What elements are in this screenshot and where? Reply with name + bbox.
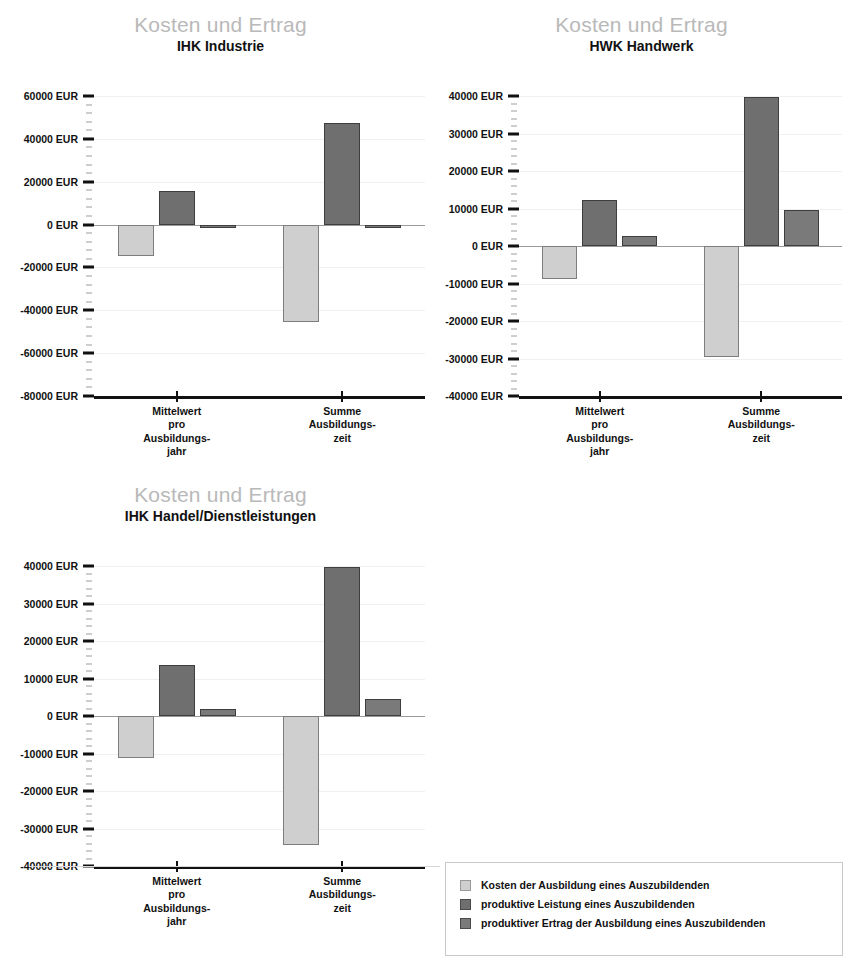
chart-0-bar: [324, 123, 360, 225]
legend-item-label: produktiver Ertrag der Ausbildung eines …: [481, 917, 766, 929]
chart-1-ytick-minor: [511, 223, 517, 224]
chart-0-ytick-label: 20000 EUR: [24, 176, 78, 188]
chart-0-ytick-minor: [86, 147, 92, 148]
chart-1-bar: [542, 246, 577, 279]
chart-0-ytick-minor: [86, 370, 92, 371]
chart-1-gridline: [519, 359, 842, 360]
chart-2-gridline: [94, 641, 425, 642]
chart-2-ytick-major: [83, 752, 94, 755]
chart-0-ytick-major: [83, 95, 94, 98]
chart-0-ytick-minor: [86, 207, 92, 208]
chart-0-subtitle: IHK Industrie: [8, 39, 433, 54]
chart-2-ytick-minor: [86, 626, 92, 627]
chart-1-ytick-minor: [511, 178, 517, 179]
chart-2-y-axis: 40000 EUR30000 EUR20000 EUR10000 EUR0 EU…: [8, 560, 94, 880]
chart-1-ytick-major: [508, 320, 519, 323]
chart-2-bar: [118, 716, 154, 758]
chart-0-xcat-label: Summe Ausbildungs- zeit: [277, 405, 407, 445]
chart-1-title: Kosten und Ertrag: [433, 14, 850, 36]
legend-swatch-icon: [460, 918, 471, 929]
chart-1-bars-panel: Mittelwert pro Ausbildungs- jahrSumme Au…: [519, 90, 842, 410]
chart-2-bar: [159, 665, 195, 716]
chart-1-ytick-minor: [511, 388, 517, 389]
chart-1-ytick-minor: [511, 298, 517, 299]
chart-2-ytick-minor: [86, 596, 92, 597]
chart-2-bar: [324, 567, 360, 716]
chart-0-ytick-label: 0 EUR: [47, 219, 78, 231]
chart-1-ytick-major: [508, 357, 519, 360]
chart-1-x-axis: [519, 396, 842, 399]
chart-0-ytick-major: [83, 266, 94, 269]
chart-0-gridline: [94, 182, 425, 183]
chart-0-bar: [159, 191, 195, 224]
chart-0-ytick-minor: [86, 113, 92, 114]
chart-1-ytick-minor: [511, 373, 517, 374]
chart-1-subtitle: HWK Handwerk: [433, 39, 850, 54]
chart-2-plot-area: 40000 EUR30000 EUR20000 EUR10000 EUR0 EU…: [8, 560, 433, 880]
chart-0-ytick-label: -40000 EUR: [20, 304, 78, 316]
chart-0-gridline: [94, 310, 425, 311]
chart-1-ytick-label: 20000 EUR: [449, 165, 503, 177]
chart-1-ytick-minor: [511, 156, 517, 157]
chart-ihk-industrie: Kosten und Ertrag IHK Industrie 60000 EU…: [8, 14, 433, 474]
chart-1-ytick-major: [508, 95, 519, 98]
chart-0-titles: Kosten und Ertrag IHK Industrie: [8, 14, 433, 54]
chart-0-gridline: [94, 353, 425, 354]
chart-0-ytick-minor: [86, 336, 92, 337]
chart-1-ytick-minor: [511, 253, 517, 254]
chart-0-gridline: [94, 96, 425, 97]
chart-0-ytick-minor: [86, 241, 92, 242]
chart-1-ytick-minor: [511, 366, 517, 367]
chart-1-gridline: [519, 284, 842, 285]
chart-0-title: Kosten und Ertrag: [8, 14, 433, 36]
chart-2-ytick-minor: [86, 723, 92, 724]
chart-0-bars-panel: Mittelwert pro Ausbildungs- jahrSumme Au…: [94, 90, 425, 410]
chart-1-gridline: [519, 171, 842, 172]
chart-2-ytick-major: [83, 640, 94, 643]
chart-0-ytick-label: 60000 EUR: [24, 90, 78, 102]
chart-0-ytick-minor: [86, 156, 92, 157]
chart-2-ytick-minor: [86, 686, 92, 687]
chart-2-ytick-minor: [86, 671, 92, 672]
chart-0-ytick-minor: [86, 190, 92, 191]
chart-1-ytick-minor: [511, 313, 517, 314]
chart-1-ytick-minor: [511, 111, 517, 112]
chart-1-bar: [622, 236, 657, 247]
chart-2-bar: [200, 709, 236, 716]
chart-1-xcat-label: Summe Ausbildungs- zeit: [696, 405, 826, 445]
chart-1-ytick-minor: [511, 238, 517, 239]
chart-1-ytick-minor: [511, 201, 517, 202]
chart-1-ytick-minor: [511, 126, 517, 127]
chart-2-ytick-label: -10000 EUR: [20, 748, 78, 760]
chart-2-ytick-minor: [86, 776, 92, 777]
chart-2-ytick-major: [83, 565, 94, 568]
chart-1-ytick-minor: [511, 163, 517, 164]
chart-0-ytick-minor: [86, 387, 92, 388]
chart-1-ytick-minor: [511, 148, 517, 149]
chart-0-ytick-minor: [86, 250, 92, 251]
chart-2-ytick-minor: [86, 648, 92, 649]
chart-2-ytick-minor: [86, 701, 92, 702]
chart-1-ytick-minor: [511, 268, 517, 269]
chart-0-ytick-minor: [86, 361, 92, 362]
chart-0-y-axis: 60000 EUR40000 EUR20000 EUR0 EUR-20000 E…: [8, 90, 94, 410]
chart-1-ytick-major: [508, 245, 519, 248]
chart-0-bar: [365, 225, 401, 228]
chart-1-ytick-major: [508, 282, 519, 285]
chart-0-ytick-label: 40000 EUR: [24, 133, 78, 145]
legend-item-label: Kosten der Ausbildung eines Auszubildend…: [481, 879, 710, 891]
chart-2-ytick-label: 30000 EUR: [24, 598, 78, 610]
chart-0-ytick-minor: [86, 378, 92, 379]
chart-0-ytick-minor: [86, 284, 92, 285]
chart-2-ytick-label: -30000 EUR: [20, 823, 78, 835]
chart-2-ytick-minor: [86, 798, 92, 799]
chart-1-ytick-major: [508, 207, 519, 210]
chart-1-ytick-label: 0 EUR: [472, 240, 503, 252]
chart-0-ytick-major: [83, 352, 94, 355]
chart-0-ytick-minor: [86, 173, 92, 174]
chart-0-ytick-label: -20000 EUR: [20, 261, 78, 273]
chart-1-ytick-minor: [511, 118, 517, 119]
chart-0-xcat-label: Mittelwert pro Ausbildungs- jahr: [112, 405, 242, 459]
chart-1-ytick-label: -30000 EUR: [445, 353, 503, 365]
chart-1-ytick-minor: [511, 193, 517, 194]
